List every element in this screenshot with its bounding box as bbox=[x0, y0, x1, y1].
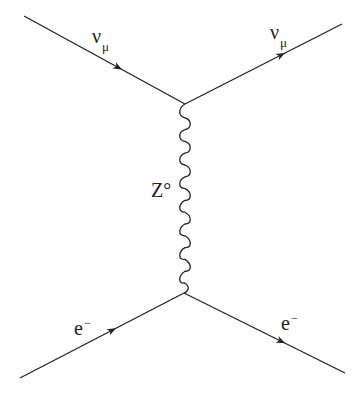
incoming-neutrino-label: νμ bbox=[92, 26, 108, 46]
incoming-electron-line bbox=[20, 293, 184, 378]
z-boson-wavy-line bbox=[180, 104, 191, 293]
outgoing-electron-label: e− bbox=[281, 313, 297, 333]
z-boson-label: Z° bbox=[151, 180, 171, 200]
outgoing-neutrino-label: νμ bbox=[270, 22, 286, 42]
outgoing-electron-line bbox=[184, 293, 345, 373]
feynman-diagram bbox=[0, 0, 362, 398]
outgoing-neutrino-line bbox=[185, 24, 342, 104]
incoming-electron-label: e− bbox=[74, 318, 90, 338]
